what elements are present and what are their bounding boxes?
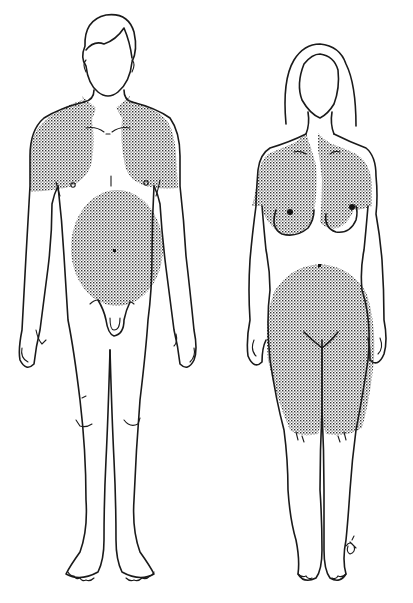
- female-nipple-left: [287, 209, 293, 215]
- female-figure: [247, 44, 386, 580]
- cropped-caption-bottom: [0, 597, 413, 603]
- male-head: [83, 15, 136, 96]
- female-head: [299, 54, 338, 118]
- male-abdomen-fat-region: [71, 190, 163, 306]
- female-lower-fat-region: [267, 264, 374, 435]
- male-navel: [113, 249, 116, 252]
- male-figure: [19, 15, 196, 581]
- female-nipple-right: [349, 204, 355, 210]
- female-navel: [318, 264, 321, 267]
- fat-distribution-illustration: [0, 0, 413, 603]
- female-hair: [285, 44, 356, 126]
- artist-signature-mark: [346, 536, 356, 554]
- cropped-caption-top: [0, 0, 413, 6]
